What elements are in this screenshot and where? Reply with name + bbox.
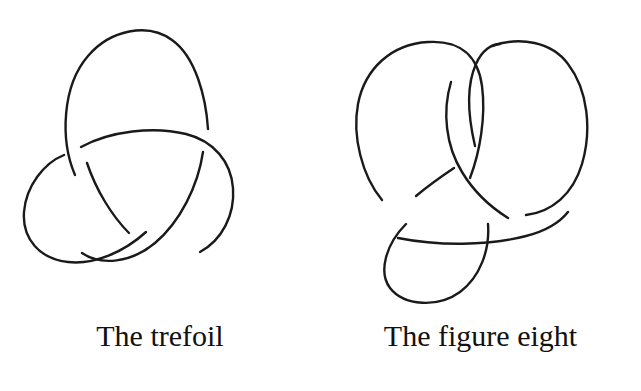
figure-eight-caption: The figure eight bbox=[320, 316, 641, 356]
trefoil-strand-upper-left bbox=[66, 30, 208, 175]
figure8-strand-right-lobe bbox=[492, 41, 587, 215]
knot-figure-root: The trefoil The figure eight bbox=[0, 0, 641, 391]
figure-eight-knot-diagram bbox=[320, 0, 641, 310]
trefoil-strand-left-lobe bbox=[24, 155, 146, 262]
figure8-strand-short-diagonal bbox=[416, 168, 454, 196]
trefoil-knot-panel bbox=[0, 0, 320, 310]
trefoil-caption: The trefoil bbox=[0, 316, 320, 356]
trefoil-strand-over-horizontal bbox=[81, 130, 233, 252]
caption-row: The trefoil The figure eight bbox=[0, 310, 641, 391]
figure8-strand-lower-lobe bbox=[384, 224, 488, 303]
trefoil-strand-right-descent bbox=[82, 152, 203, 261]
figure-eight-knot-panel bbox=[320, 0, 641, 310]
trefoil-knot-diagram bbox=[0, 0, 320, 310]
figure8-strand-lower-over bbox=[398, 212, 568, 244]
trefoil-strand-center-descent bbox=[87, 163, 129, 233]
